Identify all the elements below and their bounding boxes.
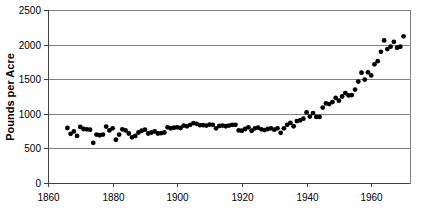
data-point	[311, 111, 316, 116]
y-tick-label-1000: 1000	[19, 109, 42, 120]
data-point	[362, 77, 367, 82]
data-point	[301, 116, 306, 121]
x-tick-label-1880: 1880	[102, 192, 125, 203]
x-tick-label-1920: 1920	[231, 192, 254, 203]
data-point	[317, 115, 322, 120]
y-axis-title: Pounds per Acre	[4, 53, 16, 141]
scatter-chart: 05001000150020002500 1860188019001920194…	[0, 0, 421, 219]
data-point	[278, 130, 283, 135]
data-point	[398, 44, 403, 49]
data-point	[162, 130, 167, 135]
plot-background	[48, 10, 410, 183]
data-point	[275, 126, 280, 131]
data-point	[388, 44, 393, 49]
data-point	[320, 105, 325, 110]
y-tick-label-2000: 2000	[19, 40, 42, 51]
y-tick-label-500: 500	[24, 143, 41, 154]
data-point	[356, 79, 361, 84]
data-point	[71, 129, 76, 134]
data-point	[126, 131, 131, 136]
data-point	[143, 127, 148, 132]
data-point	[233, 122, 238, 127]
x-axis-tick-labels: 186018801900192019401960	[37, 192, 383, 203]
data-point	[375, 59, 380, 64]
data-point	[75, 134, 80, 139]
x-tick-label-1960: 1960	[360, 192, 383, 203]
data-point	[391, 39, 396, 44]
data-point	[359, 70, 364, 75]
x-tick-label-1940: 1940	[296, 192, 319, 203]
data-point	[117, 132, 122, 137]
data-point	[369, 73, 374, 78]
y-tick-label-1500: 1500	[19, 74, 42, 85]
x-tick-label-1900: 1900	[166, 192, 189, 203]
data-point	[330, 100, 335, 105]
data-point	[336, 98, 341, 103]
data-point	[91, 140, 96, 145]
data-point	[110, 126, 115, 131]
data-point	[113, 137, 118, 142]
y-axis-tick-labels: 05001000150020002500	[19, 5, 42, 189]
data-point	[382, 38, 387, 43]
data-point	[353, 87, 358, 92]
data-point	[401, 34, 406, 39]
data-point	[65, 126, 70, 131]
data-point	[291, 124, 296, 129]
data-point	[101, 132, 106, 137]
data-point	[104, 124, 109, 129]
y-tick-label-2500: 2500	[19, 5, 42, 16]
chart-container: 05001000150020002500 1860188019001920194…	[0, 0, 421, 219]
data-point	[304, 110, 309, 115]
data-point	[88, 127, 93, 132]
y-tick-label-0: 0	[35, 178, 41, 189]
x-axis-ticks	[48, 183, 410, 187]
data-point	[349, 93, 354, 98]
x-tick-label-1860: 1860	[37, 192, 60, 203]
data-point	[379, 49, 384, 54]
